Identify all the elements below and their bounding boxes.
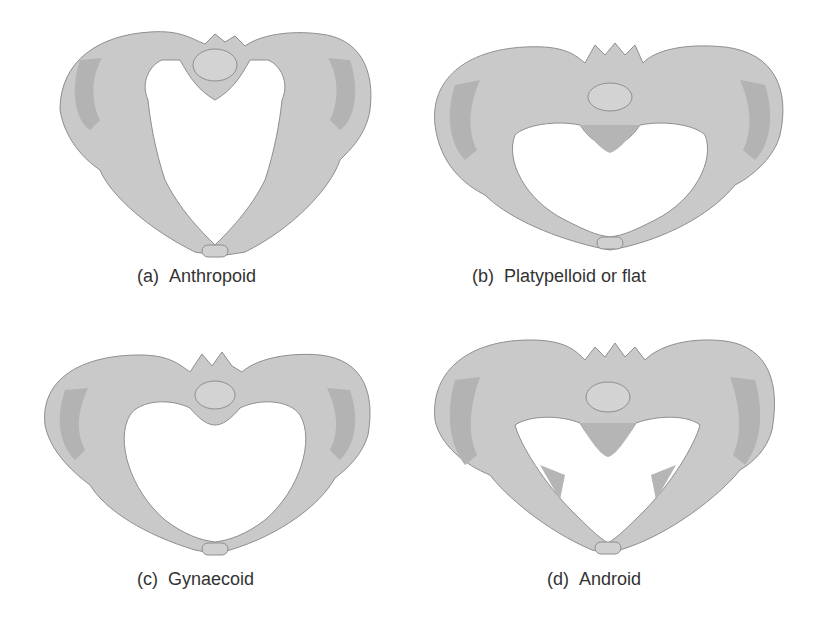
caption-gynaecoid: (c)Gynaecoid: [137, 569, 254, 590]
caption-tag: (b): [472, 266, 494, 286]
caption-android: (d)Android: [547, 569, 641, 590]
pelvis-platypelloid-illustration: [425, 25, 795, 260]
caption-tag: (a): [137, 266, 159, 286]
pelvis-anthropoid-illustration: [40, 20, 380, 260]
pelvis-android-illustration: [430, 325, 780, 560]
panel-android: (d)Android: [430, 325, 780, 560]
caption-platypelloid: (b)Platypelloid or flat: [472, 266, 646, 287]
caption-label: Android: [579, 569, 641, 589]
caption-label: Platypelloid or flat: [504, 266, 646, 286]
caption-tag: (c): [137, 569, 158, 589]
caption-label: Gynaecoid: [168, 569, 254, 589]
panel-platypelloid: (b)Platypelloid or flat: [425, 25, 795, 260]
panel-gynaecoid: (c)Gynaecoid: [30, 340, 380, 560]
panel-anthropoid: (a)Anthropoid: [40, 20, 380, 260]
caption-label: Anthropoid: [169, 266, 256, 286]
pelvis-gynaecoid-illustration: [30, 340, 380, 560]
caption-anthropoid: (a)Anthropoid: [137, 266, 256, 287]
caption-tag: (d): [547, 569, 569, 589]
